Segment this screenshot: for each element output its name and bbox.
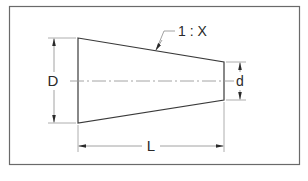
length-label: L (147, 137, 155, 154)
tapered-body-outline (78, 38, 224, 123)
taper-diagram: D d L 1 : X (0, 0, 308, 181)
large-diameter-label: D (48, 72, 59, 89)
taper-ratio-label: 1 : X (178, 23, 207, 39)
small-diameter-label: d (236, 73, 244, 89)
taper-ratio-leader (157, 31, 175, 48)
taper-ratio-leader-arrow (156, 40, 162, 50)
